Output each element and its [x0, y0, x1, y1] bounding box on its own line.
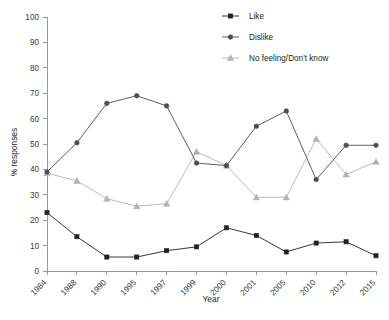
y-axis-tick-label: 30: [30, 191, 40, 200]
data-point: [193, 148, 199, 154]
x-axis-tick-label: 1999: [179, 278, 199, 298]
data-point: [373, 159, 379, 165]
data-point: [163, 200, 169, 206]
legend-item[interactable]: Dislike: [222, 33, 274, 42]
x-axis-tick-label: 1988: [59, 278, 79, 298]
data-point: [75, 140, 80, 145]
x-axis-tick-label: 2005: [268, 278, 288, 298]
data-point: [104, 195, 110, 201]
x-axis-tick-label: 1990: [89, 278, 109, 298]
data-point: [284, 109, 289, 114]
data-point: [45, 210, 49, 214]
data-point: [135, 255, 139, 259]
y-axis-tick-group: 0102030405060708090100: [25, 13, 47, 276]
series-group: [44, 93, 379, 259]
y-axis-tick-label: 60: [30, 115, 40, 124]
y-axis-tick-label: 80: [30, 64, 40, 73]
y-axis-tick-label: 0: [34, 267, 39, 276]
data-point: [374, 254, 378, 258]
legend-marker-icon: [228, 35, 233, 40]
data-point: [254, 233, 258, 237]
data-point: [344, 143, 349, 148]
data-point: [344, 240, 348, 244]
series-line: [47, 139, 376, 206]
y-axis-tick-label: 10: [30, 242, 40, 251]
x-axis-tick-label: 1984: [29, 278, 49, 298]
data-point: [165, 249, 169, 253]
series-no-feeling-don-t-know: [44, 136, 379, 209]
x-axis-tick-label: 2015: [358, 278, 378, 298]
data-point: [224, 163, 229, 168]
data-point: [284, 250, 288, 254]
data-point: [164, 104, 169, 109]
data-point: [224, 226, 228, 230]
x-axis-tick-label: 2001: [239, 278, 259, 298]
x-axis-tick-label: 2010: [298, 278, 318, 298]
legend-label: Like: [249, 12, 264, 21]
data-point: [105, 101, 110, 106]
line-chart: 0102030405060708090100 19841988199019951…: [0, 0, 389, 320]
y-axis-title: % responses: [9, 128, 19, 176]
y-axis-tick-label: 100: [25, 13, 39, 22]
y-axis-tick-label: 50: [30, 140, 40, 149]
data-point: [314, 177, 319, 182]
y-axis-tick-label: 20: [30, 216, 40, 225]
legend-item[interactable]: No feeling/Don't know: [222, 54, 328, 63]
data-point: [194, 161, 199, 166]
legend-marker-icon: [228, 14, 232, 18]
chart-legend: LikeDislikeNo feeling/Don't know: [222, 12, 328, 63]
y-axis-tick-label: 70: [30, 89, 40, 98]
legend-label: No feeling/Don't know: [249, 54, 328, 63]
data-point: [374, 143, 379, 148]
y-axis-tick-label: 40: [30, 165, 40, 174]
data-point: [314, 241, 318, 245]
y-axis-tick-label: 90: [30, 38, 40, 47]
x-axis-title: Year: [203, 294, 220, 304]
legend-label: Dislike: [249, 33, 274, 42]
x-axis-tick-label: 1995: [119, 278, 139, 298]
data-point: [105, 255, 109, 259]
data-point: [45, 170, 50, 175]
x-axis-tick-label: 1997: [149, 278, 169, 298]
chart-container: 0102030405060708090100 19841988199019951…: [0, 0, 389, 320]
series-dislike: [45, 93, 379, 181]
data-point: [75, 235, 79, 239]
series-line: [47, 213, 376, 257]
data-point: [254, 124, 259, 129]
legend-item[interactable]: Like: [222, 12, 264, 21]
data-point: [313, 136, 319, 142]
x-axis-tick-label: 2012: [328, 278, 348, 298]
series-line: [47, 96, 376, 180]
data-point: [194, 245, 198, 249]
data-point: [134, 93, 139, 98]
series-like: [45, 210, 378, 259]
